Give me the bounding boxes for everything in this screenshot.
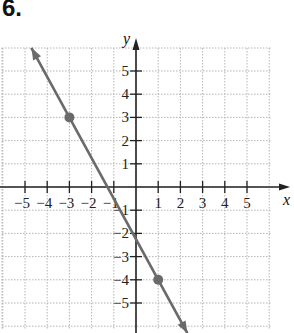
y-tick-label: −2 (113, 225, 129, 241)
y-tick-label: −5 (113, 295, 129, 311)
y-axis-label: y (121, 30, 131, 48)
graph-line (31, 48, 187, 333)
x-axis-label: x (282, 191, 290, 208)
x-tick-label: −5 (14, 195, 30, 211)
y-tick-label: 4 (122, 86, 130, 102)
x-tick-label: 1 (154, 195, 162, 211)
x-tick-label: −2 (81, 195, 97, 211)
data-point (153, 275, 163, 285)
x-axis-arrow-icon (279, 184, 290, 191)
line-arrow-down-icon (178, 320, 188, 333)
x-tick-label: 3 (199, 195, 207, 211)
y-tick-label: 3 (122, 109, 130, 125)
x-tick-label: 5 (243, 195, 251, 211)
line-arrow-up-icon (31, 48, 41, 61)
data-point (64, 112, 74, 122)
plotted-line (31, 48, 187, 333)
x-tick-label: 2 (177, 195, 185, 211)
coordinate-graph: xy −5−4−3−2−11234554321−1−2−3−4−5 (0, 0, 294, 333)
x-tick-label: −3 (58, 195, 74, 211)
y-axis-arrow-icon (133, 38, 140, 50)
y-tick-label: 2 (122, 133, 130, 149)
y-tick-label: 5 (122, 63, 130, 79)
x-tick-label: 4 (221, 195, 229, 211)
y-tick-label: −3 (113, 249, 129, 265)
y-tick-label: 1 (122, 156, 130, 172)
grid (2, 48, 272, 330)
x-tick-label: −4 (36, 195, 52, 211)
y-tick-label: −4 (113, 272, 129, 288)
